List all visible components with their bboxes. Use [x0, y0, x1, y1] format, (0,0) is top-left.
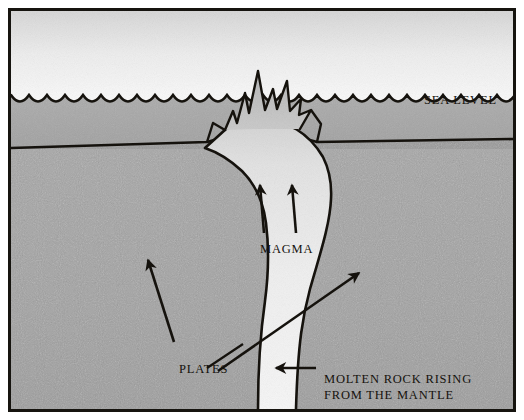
diagram-frame: SEA LEVEL MAGMA PLATES MOLTEN ROCK RISIN…: [8, 8, 516, 412]
label-molten-rock: MOLTEN ROCK RISING FROM THE MANTLE: [324, 372, 472, 402]
seafloor-spreading-diagram: SEA LEVEL MAGMA PLATES MOLTEN ROCK RISIN…: [0, 0, 524, 420]
diagram-artwork: [11, 11, 513, 409]
label-plates: PLATES: [179, 362, 228, 376]
label-magma: MAGMA: [260, 242, 313, 256]
label-molten-line-1: MOLTEN ROCK RISING: [324, 372, 472, 386]
label-sea-level: SEA LEVEL: [424, 93, 497, 107]
label-molten-line-2: FROM THE MANTLE: [324, 388, 472, 402]
